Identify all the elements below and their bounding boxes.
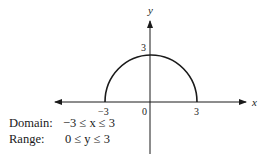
chart-canvas: y x 3 −3 0 3 [0, 0, 259, 154]
x-tick-0: 0 [142, 106, 147, 117]
x-tick-3: 3 [194, 106, 199, 117]
x-axis-label: x [251, 96, 257, 108]
y-axis-label: y [147, 4, 153, 16]
range-label: Range: [9, 133, 44, 146]
range-value: 0 ≤ y ≤ 3 [65, 133, 110, 146]
y-tick-3: 3 [141, 42, 146, 53]
semicircle-curve [105, 55, 197, 102]
domain-label: Domain: [9, 117, 53, 130]
domain-value: −3 ≤ x ≤ 3 [63, 117, 115, 130]
